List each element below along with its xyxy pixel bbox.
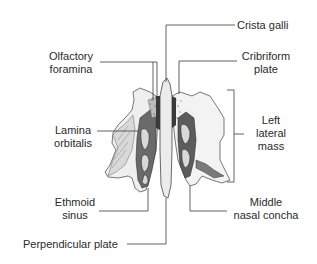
leader-perpendicular-plate [127,198,166,244]
label-middle-nasal-concha: Middle nasal concha [230,196,302,222]
label-ethmoid-sinus: Ethmoid sinus [52,196,98,222]
leader-crista-galli [166,25,235,82]
label-ethmoid-sinus-line1: Ethmoid [52,196,98,209]
label-left-lateral-mass: Left lateral mass [250,114,292,153]
bracket-left-lateral-mass [227,90,234,182]
label-lamina-orbitalis-line2: orbitalis [50,137,96,150]
leader-middle-nasal-concha [190,186,227,211]
label-perpendicular-plate: Perpendicular plate [23,238,118,251]
label-cribriform-plate-line1: Cribriform [240,50,292,63]
label-ethmoid-sinus-line2: sinus [52,209,98,222]
label-left-lateral-mass-line2: lateral [250,127,292,140]
label-lamina-orbitalis: Lamina orbitalis [50,124,96,150]
leader-cribriform-plate [179,61,237,94]
label-olfactory-foramina-line2: foramina [44,63,98,76]
label-lamina-orbitalis-line1: Lamina [50,124,96,137]
label-olfactory-foramina-line1: Olfactory [44,50,98,63]
label-middle-nasal-concha-line2: nasal concha [230,209,302,222]
label-crista-galli: Crista galli [237,19,288,32]
label-middle-nasal-concha-line1: Middle [230,196,302,209]
label-left-lateral-mass-line1: Left [250,114,292,127]
label-cribriform-plate: Cribriform plate [240,50,292,76]
label-left-lateral-mass-line3: mass [250,140,292,153]
label-cribriform-plate-line2: plate [240,63,292,76]
bone-right-half [172,92,230,186]
label-olfactory-foramina: Olfactory foramina [44,50,98,76]
